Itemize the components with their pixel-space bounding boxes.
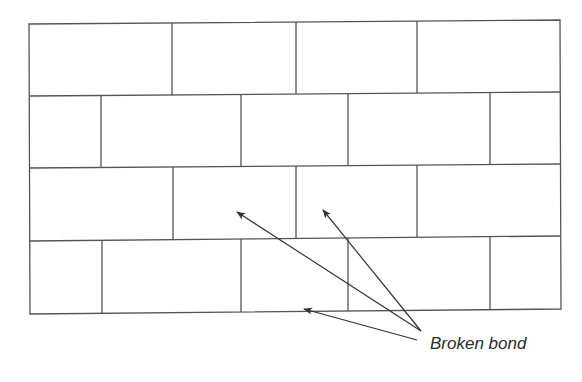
arrow-to-course-4-bottom [304, 309, 417, 340]
brick-wall-diagram [0, 0, 582, 382]
bed-joint [29, 236, 560, 241]
broken-bond-label: Broken bond [430, 334, 526, 354]
arrow-to-course-3-left [237, 212, 421, 331]
bed-joint [29, 164, 560, 168]
annotation-arrows [237, 210, 421, 340]
bed-joint [29, 92, 560, 96]
arrow-to-course-3-right [323, 210, 421, 331]
brick-courses [29, 21, 560, 313]
